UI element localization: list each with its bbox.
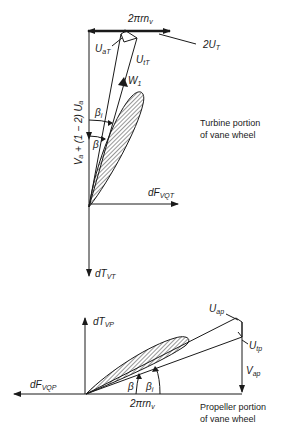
propeller-caption-line1: Propeller portion bbox=[200, 402, 266, 412]
propeller-uap-pointer bbox=[226, 314, 238, 320]
turbine-2ut-label: 2UT bbox=[202, 39, 221, 51]
propeller-diagram: dTVP dFVQP Uap Utp Vap β βi 2πrnv Propel… bbox=[14, 303, 266, 424]
propeller-beta-i-arc bbox=[156, 368, 160, 394]
propeller-rotational-velocity-label: 2πrnv bbox=[129, 398, 155, 410]
propeller-dtvp-label: dTVP bbox=[93, 316, 114, 328]
turbine-axial-velocity-label: Vₐ + (1 − 2) Uₐ bbox=[73, 100, 84, 165]
propeller-uap-label: Uap bbox=[209, 303, 224, 316]
propeller-caption-line2: of vane wheel bbox=[200, 414, 256, 424]
turbine-caption-line2: of vane wheel bbox=[200, 130, 256, 140]
turbine-beta-label: β bbox=[92, 139, 99, 150]
turbine-dfvqt-label: dFVQT bbox=[148, 187, 175, 200]
turbine-rotational-velocity-label: 2πrnv bbox=[127, 13, 153, 25]
vane-wheel-velocity-diagram: 2πrnv UaT UtT 2UT W1 βi β Vₐ + (1 − 2) U… bbox=[0, 0, 288, 430]
turbine-utt-label: UtT bbox=[136, 54, 150, 66]
turbine-caption-line1: Turbine portion bbox=[200, 118, 260, 128]
turbine-uat-pointer bbox=[112, 38, 122, 46]
propeller-beta-i-label: βi bbox=[145, 381, 154, 393]
propeller-vap-label: Vap bbox=[246, 365, 261, 378]
propeller-beta-label: β bbox=[127, 381, 134, 392]
turbine-2ut-pointer bbox=[159, 34, 196, 44]
turbine-w1-label: W1 bbox=[128, 75, 141, 87]
propeller-small-triangle bbox=[236, 318, 242, 337]
propeller-utp-pointer bbox=[242, 340, 248, 344]
turbine-w1-arrowhead-icon bbox=[118, 77, 128, 87]
turbine-beta-arrowhead-icon bbox=[101, 136, 106, 142]
propeller-utp-label: Utp bbox=[249, 340, 262, 353]
propeller-dfvqp-label: dFVQP bbox=[30, 379, 57, 392]
turbine-dtvt-label: dTVT bbox=[95, 268, 116, 280]
turbine-diagram: 2πrnv UaT UtT 2UT W1 βi β Vₐ + (1 − 2) U… bbox=[73, 13, 260, 280]
turbine-small-triangle bbox=[121, 31, 137, 42]
turbine-beta-i-label: βi bbox=[94, 107, 103, 119]
turbine-uat-label: UaT bbox=[95, 43, 111, 55]
